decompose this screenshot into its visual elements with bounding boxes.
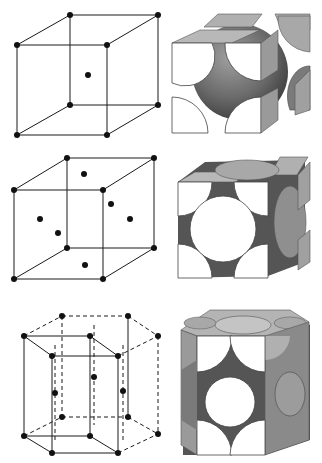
body-center-atom [85,72,91,78]
atom-points [11,155,157,282]
bcc-hard-sphere-model [172,14,310,133]
atom-points [14,12,161,138]
fcc-lattice-model [11,155,157,282]
crystal-structures-figure [0,0,322,463]
bcc-lattice-model [14,12,161,138]
atom-points [21,313,161,456]
fcc-hard-sphere-model [178,157,310,278]
hcp-hard-sphere-model [181,310,310,455]
hcp-lattice-model [21,313,161,456]
